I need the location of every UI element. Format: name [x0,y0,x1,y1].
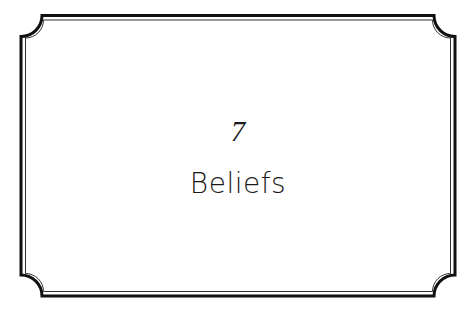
chapter-number: 7 [0,113,476,149]
chapter-title: Beliefs [0,165,476,203]
outer-border-line [21,16,455,297]
decorative-border-frame [0,0,476,311]
inner-border-line [26,20,451,292]
